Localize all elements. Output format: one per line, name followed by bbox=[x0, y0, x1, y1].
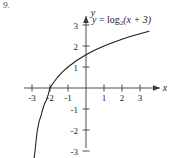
y-tick-label: 2 bbox=[74, 42, 79, 52]
x-tick-label: -3 bbox=[28, 93, 36, 103]
y-tick-label: -2 bbox=[71, 126, 79, 136]
x-axis-label: x bbox=[162, 82, 168, 93]
x-tick-label: -1 bbox=[64, 93, 72, 103]
graph-plot: x y -3 -2 -1 1 2 3 3 2 1 -1 -2 -3 bbox=[0, 0, 176, 158]
x-tick-label: 3 bbox=[138, 93, 143, 103]
x-tick-label: 2 bbox=[120, 93, 125, 103]
y-axis-arrowhead bbox=[83, 16, 89, 23]
x-axis-arrowhead bbox=[153, 85, 160, 91]
y-tick-label: 1 bbox=[74, 63, 79, 73]
y-tick-label: -1 bbox=[71, 105, 79, 115]
y-tick-label: -3 bbox=[71, 147, 79, 157]
figure-container: 9. y = log2(x + 3) x y -3 -2 -1 1 2 3 bbox=[0, 0, 176, 158]
y-tick-label: 3 bbox=[74, 21, 79, 31]
y-axis-label: y bbox=[90, 7, 96, 18]
x-tick-label: 1 bbox=[102, 93, 107, 103]
